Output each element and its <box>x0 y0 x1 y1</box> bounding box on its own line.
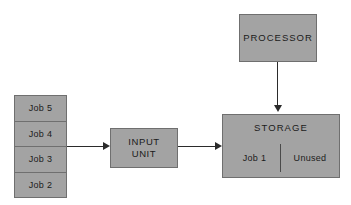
storage: STORAGE Job 1 Unused <box>222 114 340 178</box>
job-queue-cell: Job 4 <box>14 121 67 147</box>
processor: PROCESSOR <box>239 14 317 62</box>
diagram-canvas: Job 5 Job 4 Job 3 Job 2 INPUT UNIT PROCE… <box>0 0 351 205</box>
storage-partition-unused: Unused <box>281 153 339 164</box>
input-to-storage-arrow-head <box>215 142 222 150</box>
input-unit: INPUT UNIT <box>110 128 178 168</box>
job-queue-cell: Job 5 <box>14 95 67 121</box>
storage-partition-job: Job 1 <box>229 153 280 164</box>
queue-to-input-arrow-line <box>67 146 105 147</box>
job-queue-cell-label: Job 3 <box>29 154 53 164</box>
job-queue-cell-label: Job 5 <box>29 103 53 113</box>
job-queue-cell: Job 3 <box>14 146 67 172</box>
queue-to-input-arrow-head <box>103 142 110 150</box>
processor-to-storage-arrow-line <box>277 62 278 107</box>
processor-label: PROCESSOR <box>243 32 313 44</box>
job-queue-stack: Job 5 Job 4 Job 3 Job 2 <box>14 95 67 198</box>
job-queue-cell-label: Job 4 <box>29 129 53 139</box>
job-queue-cell: Job 2 <box>14 172 67 199</box>
input-unit-label-line1: INPUT <box>128 136 160 148</box>
input-to-storage-arrow-line <box>178 146 216 147</box>
job-queue-cell-label: Job 2 <box>29 180 53 190</box>
storage-title: STORAGE <box>223 122 339 134</box>
input-unit-label-line2: UNIT <box>132 148 157 160</box>
processor-to-storage-arrow-head <box>274 105 282 112</box>
